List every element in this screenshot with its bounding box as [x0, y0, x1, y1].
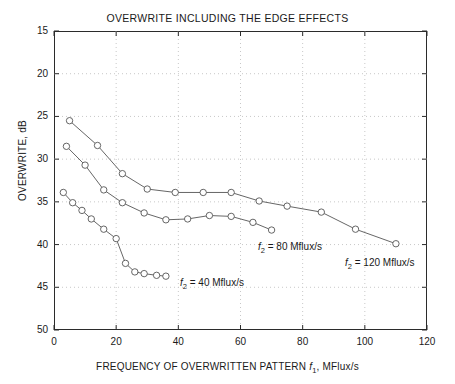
- y-tick-label: 15: [18, 26, 48, 36]
- ann-f2-120: f2 = 120 Mflux/s: [345, 257, 414, 271]
- y-tick-label: 50: [18, 325, 48, 335]
- x-tick-label: 80: [283, 337, 323, 347]
- chart-canvas: OVERWRITE INCLUDING THE EDGE EFFECTS 152…: [0, 0, 455, 384]
- x-tick-label: 40: [158, 337, 198, 347]
- x-tick-label: 20: [96, 337, 136, 347]
- y-axis-title: OVERWRITE, dB: [17, 61, 28, 261]
- x-tick-label: 60: [221, 337, 261, 347]
- x-tick-label: 0: [34, 337, 74, 347]
- y-tick-label: 45: [18, 282, 48, 292]
- ann-f2-40: f2 = 40 Mflux/s: [180, 277, 244, 291]
- ann-f2-80: f2 = 80 Mflux/s: [258, 241, 322, 255]
- x-tick-label: 100: [345, 337, 385, 347]
- x-axis-title: FREQUENCY OF OVERWRITTEN PATTERN f1, MFl…: [0, 361, 455, 375]
- x-tick-label: 120: [407, 337, 447, 347]
- chart-title: OVERWRITE INCLUDING THE EDGE EFFECTS: [0, 12, 455, 24]
